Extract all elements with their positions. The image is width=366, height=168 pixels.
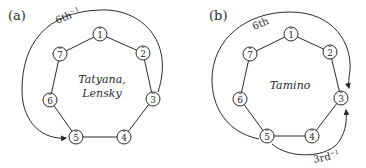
arc2-label-b: 3rd−1 [312,148,340,165]
node-1-a: ^ 1 [93,26,107,41]
svg-text:3: 3 [338,94,344,104]
arc-label-b: 6th [251,15,271,32]
svg-text:1: 1 [288,30,294,40]
center-text-a-line2: Lensky [81,87,122,100]
panel-label-b: (b) [209,8,227,23]
node-6-a: ^ 6 [43,92,57,107]
arc-label-a: 6th−1 [53,5,81,26]
node-7-b: ^ 7 [243,46,257,61]
svg-text:5: 5 [73,133,79,143]
svg-text:7: 7 [57,50,63,60]
center-text-a-line1: Tatyana, [78,73,125,86]
node-5-b: ^ 5 [260,128,274,143]
node-7-a: ^ 7 [53,46,67,61]
svg-text:2: 2 [140,49,146,59]
svg-text:3: 3 [150,95,156,105]
node-3-b: ^ 3 [334,90,348,105]
node-1-b: ^ 1 [284,26,298,41]
node-6-b: ^ 6 [233,91,247,106]
panel-a: (a) 6th−1 ^ 1 ^ 2 ^ 3 ^ 4 [8,5,162,144]
svg-text:4: 4 [309,132,315,142]
arc-6th-b [212,12,350,139]
node-2-b: ^ 2 [323,44,337,59]
panel-label-a: (a) [8,8,26,23]
panel-b: (b) 6th 3rd−1 ^ 1 ^ 2 ^ 3 [209,8,350,165]
svg-text:1: 1 [97,30,103,40]
node-5-a: ^ 5 [69,129,83,144]
node-2-a: ^ 2 [136,45,150,60]
diagram-canvas: (a) 6th−1 ^ 1 ^ 2 ^ 3 ^ 4 [0,0,366,168]
svg-text:2: 2 [327,48,333,58]
svg-text:4: 4 [121,133,127,143]
svg-text:7: 7 [247,50,253,60]
center-text-b: Tamino [270,79,311,92]
svg-text:5: 5 [264,132,270,142]
svg-text:6: 6 [237,95,243,105]
svg-text:6: 6 [47,96,53,106]
node-3-a: ^ 3 [146,91,160,106]
